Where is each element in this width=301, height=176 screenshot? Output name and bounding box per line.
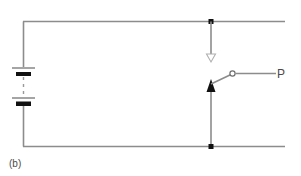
battery-cell-1-negative-plate [16,72,31,76]
down-arrow-indicator-icon [207,54,216,62]
switch-contact-arrow-icon [207,79,216,92]
figure-caption: (b) [9,158,21,169]
bottom-junction-node-dot [209,144,214,149]
switch-open-contact-ring [230,71,235,76]
circuit-figure: P (b) [0,0,301,176]
terminal-label-p: P [277,67,285,81]
circuit-schematic: P (b) [0,0,301,176]
battery-cell-2-negative-plate [16,102,31,107]
switch-blade-wire [211,75,231,85]
